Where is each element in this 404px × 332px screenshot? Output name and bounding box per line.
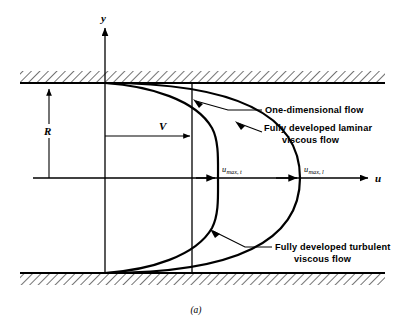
turbulent-flow-annotation: Fully developed turbulent viscous flow	[210, 229, 391, 264]
figure-container: y u R V	[0, 0, 404, 332]
turbulent-peak-label: umax, t	[222, 165, 242, 175]
laminar-flow-label-line1: Fully developed laminar	[264, 123, 372, 133]
velocity-profile-diagram: y u R V	[0, 0, 404, 332]
radius-dimension: R	[41, 89, 56, 178]
top-wall	[20, 71, 385, 83]
turbulent-flow-arrowhead	[210, 229, 220, 238]
mean-velocity-arrow: V	[105, 119, 190, 136]
laminar-flow-annotation: Fully developed laminar viscous flow	[235, 121, 372, 145]
turbulent-flow-leader	[213, 231, 272, 247]
bottom-wall	[20, 273, 385, 285]
turbulent-flow-label-line1: Fully developed turbulent	[275, 242, 391, 252]
y-axis: y	[99, 12, 106, 273]
bottom-wall-hatching	[20, 274, 385, 285]
laminar-flow-arrowhead	[235, 121, 245, 130]
one-dimensional-flow-annotation: One-dimensional flow	[193, 99, 364, 115]
figure-caption: (a)	[190, 305, 201, 316]
top-wall-hatching	[20, 71, 385, 82]
one-dimensional-flow-arrowhead	[193, 99, 203, 108]
u-axis-label: u	[375, 172, 381, 184]
one-dimensional-flow-leader	[196, 101, 262, 110]
radius-label: R	[43, 125, 51, 137]
laminar-flow-label-line2: viscous flow	[282, 135, 340, 145]
y-axis-label: y	[99, 12, 106, 24]
laminar-peak-label: umax, l	[304, 165, 324, 175]
turbulent-flow-label-line2: viscous flow	[294, 254, 352, 264]
one-dimensional-flow-label: One-dimensional flow	[265, 105, 364, 115]
